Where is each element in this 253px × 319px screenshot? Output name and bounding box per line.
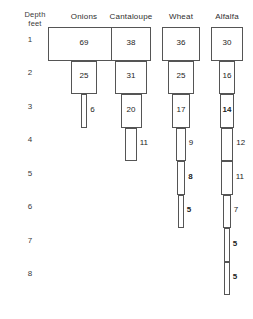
depth-tick-1: 1: [22, 35, 38, 44]
bar-segment-value: 16: [215, 71, 239, 80]
bar-segment-value: 36: [169, 38, 193, 47]
bar-segment-value: 69: [72, 38, 96, 47]
depth-tick-6: 6: [22, 202, 38, 211]
bar-segment: [81, 94, 87, 128]
bar-segment: [223, 195, 230, 229]
bar-segment: [224, 262, 229, 296]
depth-tick-4: 4: [22, 135, 38, 144]
depth-tick-2: 2: [22, 68, 38, 77]
bar-segment-value: 25: [169, 71, 193, 80]
bar-segment-value: 31: [119, 71, 143, 80]
bar-segment-value: 8: [188, 172, 206, 181]
bar-segment-value: 6: [90, 105, 108, 114]
bar-segment: [221, 128, 234, 162]
bar-segment-value: 5: [233, 239, 251, 248]
bar-segment-value: 14: [215, 105, 239, 114]
bar-segment-value: 7: [234, 205, 252, 214]
bar-segment-value: 17: [169, 105, 193, 114]
bar-segment: [178, 195, 183, 229]
bar-segment-value: 25: [72, 71, 96, 80]
bar-segment: [221, 161, 233, 195]
bar-segment-value: 38: [119, 38, 143, 47]
bar-segment: [125, 128, 137, 162]
column-header-alfalfa: Alfalfa: [187, 12, 253, 21]
bar-segment-value: 30: [215, 38, 239, 47]
bar-segment-value: 5: [187, 205, 205, 214]
bar-segment: [176, 128, 185, 162]
bar-segment-value: 9: [189, 138, 207, 147]
depth-tick-8: 8: [22, 269, 38, 278]
bar-segment-value: 11: [236, 172, 253, 181]
bar-segment: [177, 161, 185, 195]
bar-segment: [224, 228, 229, 262]
bar-segment-value: 11: [140, 138, 158, 147]
depth-tick-5: 5: [22, 169, 38, 178]
bar-segment-value: 5: [233, 272, 251, 281]
bar-segment-value: 20: [119, 105, 143, 114]
bar-segment-value: 12: [236, 138, 253, 147]
depth-tick-3: 3: [22, 102, 38, 111]
depth-tick-7: 7: [22, 236, 38, 245]
depth-extraction-chart: Depth feet 12345678 OnionsCantaloupeWhea…: [0, 0, 253, 319]
